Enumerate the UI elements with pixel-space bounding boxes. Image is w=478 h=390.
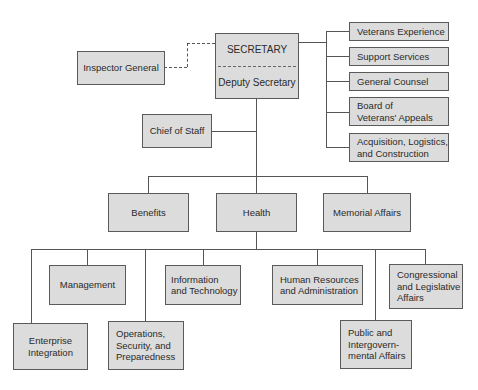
- office-label: Information and Technology: [171, 274, 237, 297]
- ig-dashed-connector-h2: [187, 43, 215, 44]
- administration-benefits: Benefits: [108, 193, 189, 232]
- office-information-technology: Information and Technology: [165, 265, 241, 305]
- office-label: Management: [60, 279, 115, 291]
- administration-label: Memorial Affairs: [333, 207, 401, 219]
- administration-memorial-affairs: Memorial Affairs: [323, 193, 411, 232]
- office-human-resources-administration: Human Resources and Administration: [272, 265, 363, 305]
- staff-connector-5: [326, 147, 349, 148]
- staff-bracket-vertical: [326, 31, 327, 148]
- congressional-drop: [425, 249, 426, 264]
- office-congressional-legislative-affairs: Congressional and Legislative Affairs: [389, 264, 463, 309]
- secretary-label: SECRETARY: [216, 44, 298, 56]
- ig-dashed-connector-v: [187, 43, 188, 67]
- staff-connector-2: [326, 56, 349, 57]
- secretary-to-staff-connector: [298, 42, 326, 43]
- office-public-intergovernmental-affairs: Public and Intergovern- mental Affairs: [340, 320, 412, 369]
- admin-bracket-horizontal: [148, 176, 368, 177]
- secretary-box: SECRETARY Deputy Secretary: [215, 33, 299, 99]
- operations-drop: [145, 249, 146, 321]
- inspector-general-label: Inspector General: [83, 62, 159, 74]
- administration-label: Health: [243, 207, 270, 219]
- staff-office-label: Support Services: [357, 51, 429, 63]
- staff-connector-1: [326, 31, 349, 32]
- inspector-general-box: Inspector General: [77, 51, 165, 85]
- office-management: Management: [49, 265, 126, 305]
- memorial-drop: [367, 176, 368, 193]
- information-drop: [203, 249, 204, 265]
- staff-office-label: General Counsel: [357, 76, 428, 88]
- staff-office-general-counsel: General Counsel: [349, 72, 449, 91]
- office-label: Congressional and Legislative Affairs: [397, 269, 460, 304]
- chief-of-staff-connector: [211, 131, 256, 132]
- office-operations-security-preparedness: Operations, Security, and Preparedness: [108, 321, 184, 370]
- chief-of-staff-label: Chief of Staff: [150, 125, 205, 137]
- offices-bracket-horizontal: [31, 249, 426, 250]
- staff-office-support-services: Support Services: [349, 47, 449, 66]
- staff-connector-3: [326, 81, 349, 82]
- staff-office-board-of-veterans-appeals: Board of Veterans' Appeals: [349, 97, 449, 126]
- administration-health: Health: [216, 193, 297, 232]
- hr-drop: [317, 249, 318, 265]
- office-label: Public and Intergovern- mental Affairs: [348, 327, 405, 362]
- staff-office-veterans-experience: Veterans Experience: [349, 22, 449, 41]
- staff-office-acquisition-logistics-construction: Acquisition, Logistics, and Construction: [349, 133, 449, 162]
- staff-connector-4: [326, 112, 349, 113]
- health-to-offices-trunk: [256, 231, 257, 249]
- office-enterprise-integration: Enterprise Integration: [13, 323, 88, 370]
- secretary-deputy-divider: [218, 66, 296, 67]
- enterprise-drop: [31, 249, 32, 323]
- ig-dashed-connector-h1: [164, 67, 187, 68]
- office-label: Human Resources and Administration: [280, 274, 359, 297]
- office-label: Enterprise Integration: [28, 335, 73, 358]
- public-drop: [375, 249, 376, 320]
- benefits-drop: [148, 176, 149, 193]
- deputy-secretary-label: Deputy Secretary: [216, 77, 298, 89]
- office-label: Operations, Security, and Preparedness: [116, 328, 175, 363]
- staff-office-label: Acquisition, Logistics, and Construction: [357, 136, 448, 159]
- staff-office-label: Board of Veterans' Appeals: [357, 100, 433, 123]
- management-drop: [87, 249, 88, 265]
- staff-office-label: Veterans Experience: [357, 26, 445, 38]
- chief-of-staff-box: Chief of Staff: [142, 114, 212, 148]
- main-trunk: [256, 98, 257, 193]
- administration-label: Benefits: [131, 207, 165, 219]
